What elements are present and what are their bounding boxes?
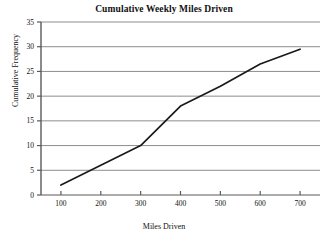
y-tick-label: 20	[27, 92, 35, 101]
chart-container: Cumulative Weekly Miles Driven Cumulativ…	[0, 0, 328, 242]
x-tick-label: 300	[135, 199, 147, 208]
y-tick-label: 0	[30, 191, 34, 200]
x-tick-label: 700	[294, 199, 306, 208]
y-tick-label: 5	[30, 166, 34, 175]
y-tick-label: 10	[27, 141, 35, 150]
plot-area: 05101520253035 100200300400500600700	[0, 0, 328, 242]
y-tick-label: 30	[27, 42, 35, 51]
x-tick-label: 600	[255, 199, 267, 208]
data-series-line	[61, 49, 300, 185]
series-line	[61, 49, 300, 185]
x-tick-label: 400	[175, 199, 187, 208]
y-tick-labels: 05101520253035	[27, 18, 35, 200]
x-tick-label: 500	[215, 199, 227, 208]
x-tick-label: 100	[55, 199, 67, 208]
x-tick-labels: 100200300400500600700	[55, 199, 306, 208]
y-tick-label: 15	[27, 116, 35, 125]
x-tick-label: 200	[95, 199, 107, 208]
y-tick-label: 25	[27, 67, 35, 76]
y-axis	[37, 22, 41, 195]
gridlines	[41, 22, 320, 170]
y-tick-label: 35	[27, 18, 35, 27]
x-axis	[41, 191, 320, 195]
